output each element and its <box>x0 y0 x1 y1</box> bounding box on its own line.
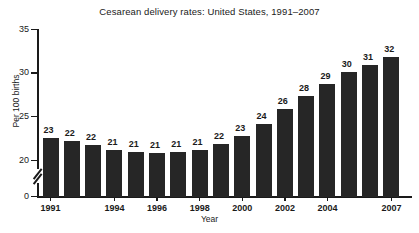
bar-value-label: 21 <box>145 141 166 150</box>
bar-value-label: 30 <box>336 60 357 69</box>
x-axis-tick <box>327 197 329 201</box>
chart-figure: Cesarean delivery rates: United States, … <box>0 0 419 233</box>
bar-slot: 29 <box>317 29 338 197</box>
bar-value-label: 23 <box>230 124 251 133</box>
bar[interactable] <box>64 141 80 197</box>
bar-slot: 21 <box>125 29 146 197</box>
x-axis-tick <box>199 197 201 201</box>
bar-value-label: 21 <box>123 140 144 149</box>
bar-slot: 21 <box>104 29 125 197</box>
x-axis-tick <box>156 197 158 201</box>
x-axis-tick-label: 2007 <box>371 203 411 213</box>
x-axis-tick-label: 2004 <box>308 203 348 213</box>
y-axis-tick-label: 35 <box>5 25 29 34</box>
bar[interactable] <box>213 144 229 197</box>
bar-value-label: 21 <box>187 138 208 147</box>
bar-slot: 22 <box>61 29 82 197</box>
bar-slot: 23 <box>40 29 61 197</box>
x-axis-tick-label: 1994 <box>95 203 135 213</box>
x-axis-tick <box>242 197 244 201</box>
bar-slot: 21 <box>189 29 210 197</box>
x-axis-tick-label: 1996 <box>137 203 177 213</box>
bar[interactable] <box>128 152 144 197</box>
bar-value-label: 24 <box>251 112 272 121</box>
bar-slot: 26 <box>274 29 295 197</box>
bar[interactable] <box>256 124 272 197</box>
bar[interactable] <box>170 152 186 197</box>
y-axis-tick <box>31 29 39 31</box>
x-axis-tick <box>391 197 393 201</box>
bar-slot: 28 <box>296 29 317 197</box>
bar-value-label: 22 <box>59 129 80 138</box>
bar-value-label: 21 <box>166 140 187 149</box>
bar-slot: 22 <box>83 29 104 197</box>
bar[interactable] <box>106 150 122 197</box>
bar-value-label: 22 <box>208 132 229 141</box>
x-axis-tick-label: 1998 <box>180 203 220 213</box>
y-axis-tick <box>31 160 39 162</box>
bar[interactable] <box>383 57 399 197</box>
x-axis-tick <box>114 197 116 201</box>
bar-value-label: 21 <box>102 138 123 147</box>
bar-value-label: 26 <box>272 97 293 106</box>
bar-value-label: 32 <box>379 45 400 54</box>
bar-slot: 31 <box>360 29 381 197</box>
y-axis-tick-label: 0 <box>5 192 29 201</box>
y-axis-tick <box>31 196 39 198</box>
bar-value-label: 28 <box>294 84 315 93</box>
bar[interactable] <box>298 96 314 198</box>
bar[interactable] <box>149 153 165 197</box>
x-axis-tick-label: 2002 <box>265 203 305 213</box>
y-axis-tick <box>31 116 39 118</box>
bar-slot: 30 <box>338 29 359 197</box>
bar-value-label: 29 <box>315 72 336 81</box>
bar[interactable] <box>341 72 357 197</box>
bar[interactable] <box>362 65 378 197</box>
bar[interactable] <box>85 145 101 197</box>
bar[interactable] <box>234 136 250 197</box>
bar-slot: 21 <box>147 29 168 197</box>
x-axis-tick-label: 2000 <box>222 203 262 213</box>
bar[interactable] <box>319 84 335 197</box>
bar[interactable] <box>277 109 293 197</box>
x-axis-tick <box>284 197 286 201</box>
y-axis-tick <box>31 72 39 74</box>
x-axis-title: Year <box>0 214 419 224</box>
bar-slot: 21 <box>168 29 189 197</box>
chart-title: Cesarean delivery rates: United States, … <box>0 6 419 17</box>
bar-slot: 32 <box>381 29 402 197</box>
x-axis-tick-label: 1991 <box>31 203 71 213</box>
bar[interactable] <box>43 138 59 197</box>
x-axis-tick <box>50 197 52 201</box>
bar-slot: 23 <box>232 29 253 197</box>
bar-value-label: 22 <box>81 133 102 142</box>
bar-value-label: 31 <box>358 53 379 62</box>
bar-slot: 22 <box>210 29 231 197</box>
bar-value-label: 23 <box>38 126 59 135</box>
y-axis-title: Per 100 births <box>11 61 21 141</box>
y-axis-tick-label: 20 <box>5 156 29 165</box>
bar[interactable] <box>192 150 208 197</box>
bar-series: 2322222121212121222324262829303132 <box>40 29 412 197</box>
bar-slot: 24 <box>253 29 274 197</box>
